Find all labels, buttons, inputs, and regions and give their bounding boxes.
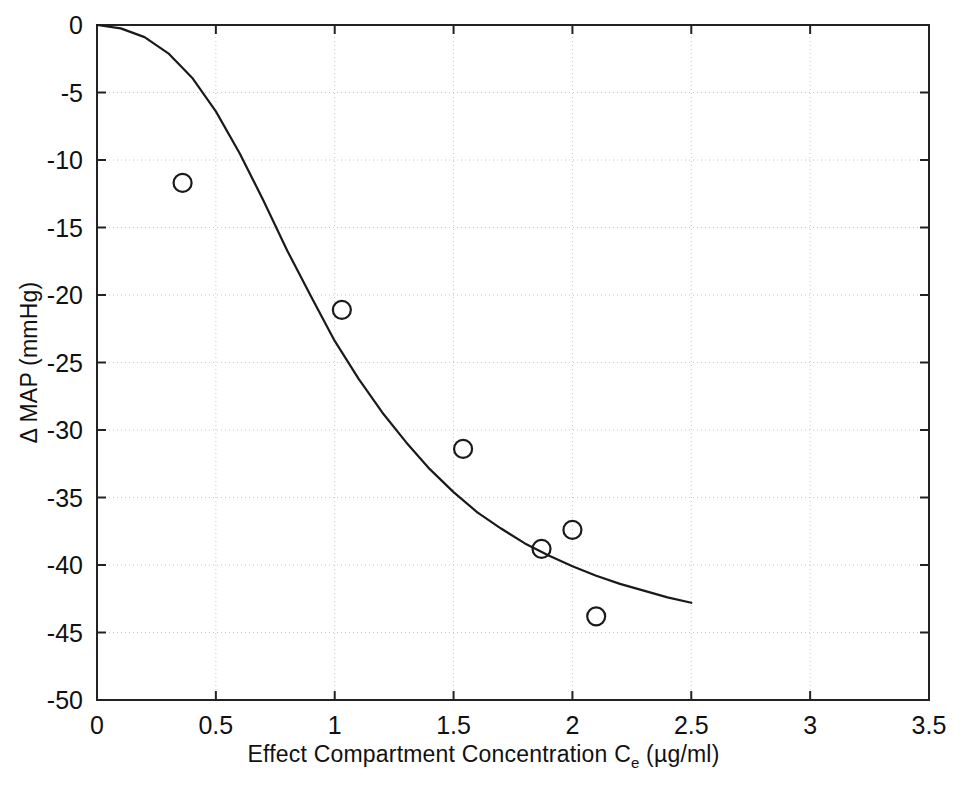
x-axis-label: Effect Compartment Concentration Ce (µg/… <box>0 741 967 771</box>
x-tick-label: 1.5 <box>436 711 471 739</box>
x-axis-label-units: (µg/ml) <box>640 741 720 767</box>
x-axis-label-subscript: e <box>631 754 640 771</box>
y-axis-label: Δ MAP (mmHg) <box>17 282 44 444</box>
x-tick-label: 0.5 <box>198 711 233 739</box>
x-tick-label: 3 <box>803 711 817 739</box>
plot-canvas: 00.511.522.533.5 0-5-10-15-20-25-30-35-4… <box>0 0 967 792</box>
data-point-marker <box>174 174 192 192</box>
x-tick-label: 0 <box>90 711 104 739</box>
data-point-marker <box>454 440 472 458</box>
data-point-markers <box>174 174 606 625</box>
x-axis-label-main: Effect Compartment Concentration C <box>247 741 631 767</box>
y-axis-label-wrap: Δ MAP (mmHg) <box>0 0 60 725</box>
data-point-marker <box>587 607 605 625</box>
x-tick-label: 2.5 <box>674 711 709 739</box>
fit-curve <box>97 25 691 603</box>
x-tick-label: 3.5 <box>912 711 947 739</box>
y-tick-label: 0 <box>69 11 83 39</box>
x-tick-label: 1 <box>328 711 342 739</box>
figure-container: 00.511.522.533.5 0-5-10-15-20-25-30-35-4… <box>0 0 967 792</box>
gridlines <box>97 25 929 700</box>
x-tick-label: 2 <box>565 711 579 739</box>
data-point-marker <box>333 301 351 319</box>
y-tick-label: -5 <box>61 79 83 107</box>
x-tick-labels: 00.511.522.533.5 <box>90 711 946 739</box>
